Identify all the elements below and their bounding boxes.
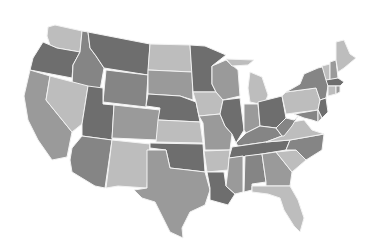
state-fl [252, 186, 304, 232]
state-ct [328, 86, 336, 96]
state-co [112, 105, 160, 140]
state-nd [148, 44, 192, 72]
state-ar [204, 150, 230, 172]
state-az [70, 136, 112, 188]
state-nm [106, 140, 150, 188]
state-me [336, 40, 356, 72]
state-ma [326, 78, 344, 86]
us-map [0, 0, 378, 249]
state-ri [336, 86, 340, 94]
state-wy [103, 70, 148, 107]
state-ks [156, 120, 203, 143]
state-ms [226, 156, 243, 194]
